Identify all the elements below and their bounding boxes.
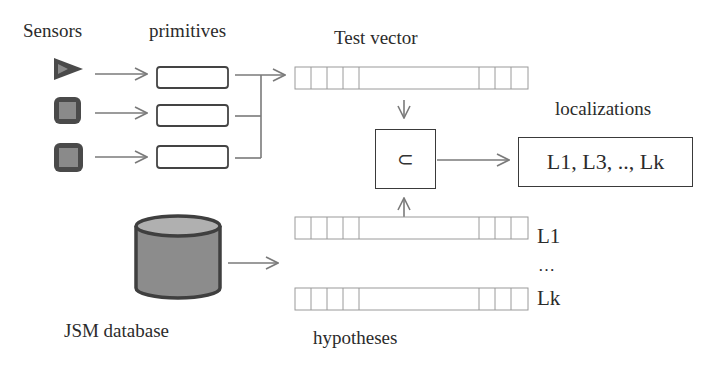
localizations-box: L1, L3, .., Lk (518, 137, 693, 187)
hypothesis-bar-lk (295, 288, 528, 310)
test-vector-bar (295, 67, 528, 89)
square-sensor-icon (54, 97, 81, 124)
subset-operator-box: ⊂ (375, 129, 436, 189)
database-icon (136, 216, 220, 298)
subset-icon: ⊂ (397, 147, 414, 171)
hypothesis-bar-l1 (295, 217, 528, 239)
localizations-text: L1, L3, .., Lk (547, 149, 664, 175)
square-sensor-icon (54, 143, 83, 172)
primitive-boxes (157, 67, 228, 168)
sensor-arrows (95, 74, 147, 157)
triangle-sensor-icon (54, 58, 83, 80)
merge-connector (235, 75, 285, 158)
